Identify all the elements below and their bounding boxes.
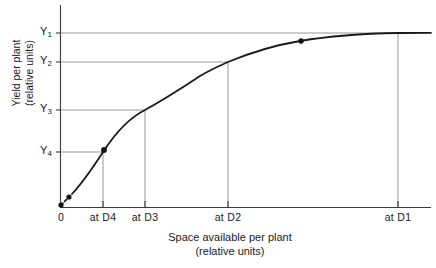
data-point: [66, 194, 71, 199]
figure-canvas: Y1 Y2 Y3 Y4 0 at D4 at D3 at D2 at D1 Yi…: [0, 0, 436, 268]
x-axis-title: Space available per plant (relative unit…: [100, 230, 360, 258]
y-axis-ticks: [56, 33, 61, 152]
data-point: [58, 202, 63, 207]
x-tick-label-at-d1: at D1: [375, 211, 421, 223]
x-tick-label-0: 0: [50, 211, 72, 223]
axis-lines: [60, 5, 431, 208]
x-tick-label-at-d3: at D3: [122, 211, 168, 223]
data-point: [298, 38, 303, 43]
x-axis-title-line2: (relative units): [100, 244, 360, 258]
data-point-markers: [58, 38, 303, 207]
y-axis-title: Yield per plant (relative units): [10, 0, 36, 148]
vertical-droplines: [103, 33, 398, 207]
x-tick-label-at-d2: at D2: [205, 211, 251, 223]
x-axis-title-line1: Space available per plant: [100, 230, 360, 244]
y-axis-title-line2: (relative units): [23, 0, 36, 148]
chart-plot-area: [0, 0, 436, 268]
x-tick-label-at-d4: at D4: [80, 211, 126, 223]
x-axis-ticks: [103, 201, 398, 208]
horizontal-gridlines: [60, 33, 398, 152]
yield-response-curve: [72, 33, 431, 194]
data-point: [101, 147, 107, 153]
y-axis-title-line1: Yield per plant: [10, 0, 23, 148]
